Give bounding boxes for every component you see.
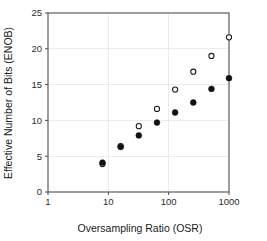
y-tick-label: 5 bbox=[37, 151, 42, 162]
data-point-filled-circles bbox=[100, 160, 106, 166]
x-tick-label: 10 bbox=[103, 196, 114, 207]
x-tick-label: 1000 bbox=[218, 196, 239, 207]
y-tick-label: 0 bbox=[37, 186, 42, 197]
data-point-filled-circles bbox=[118, 144, 124, 150]
data-point-open-circles bbox=[191, 69, 196, 74]
data-point-open-circles bbox=[136, 124, 141, 129]
axes-frame bbox=[48, 13, 229, 192]
y-tick-label: 15 bbox=[31, 79, 42, 90]
x-axis-title: Oversampling Ratio (OSR) bbox=[78, 222, 203, 234]
data-point-filled-circles bbox=[209, 86, 215, 92]
x-tick-label: 1 bbox=[45, 196, 50, 207]
grid-lines bbox=[48, 13, 229, 192]
y-axis-title: Effective Number of Bits (ENOB) bbox=[2, 27, 14, 179]
data-points bbox=[100, 35, 232, 167]
y-tick-label: 25 bbox=[31, 7, 42, 18]
y-axis-tick-labels: 0510152025 bbox=[31, 7, 42, 197]
data-point-open-circles bbox=[173, 87, 178, 92]
data-point-open-circles bbox=[209, 53, 214, 58]
data-point-filled-circles bbox=[226, 75, 232, 81]
data-point-open-circles bbox=[154, 106, 159, 111]
tick-marks bbox=[45, 13, 229, 195]
chart-figure: 1101001000 0510152025 Oversampling Ratio… bbox=[0, 0, 267, 241]
y-tick-label: 10 bbox=[31, 115, 42, 126]
data-point-filled-circles bbox=[136, 133, 142, 139]
data-point-open-circles bbox=[226, 35, 231, 40]
data-point-filled-circles bbox=[190, 100, 196, 106]
x-tick-label: 100 bbox=[161, 196, 177, 207]
scatter-plot-canvas: 1101001000 0510152025 Oversampling Ratio… bbox=[0, 0, 267, 241]
x-axis-tick-labels: 1101001000 bbox=[45, 196, 239, 207]
data-point-filled-circles bbox=[154, 120, 160, 126]
y-tick-label: 20 bbox=[31, 43, 42, 54]
data-point-filled-circles bbox=[172, 110, 178, 116]
